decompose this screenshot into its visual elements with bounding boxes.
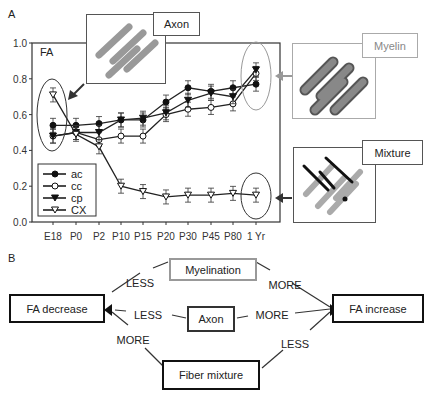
x-tick-label: E18 xyxy=(44,231,62,242)
x-tick-label: P45 xyxy=(202,231,220,242)
fiber-mixture-node: Fiber mixture xyxy=(162,360,260,390)
axon-label-box: Axon xyxy=(153,12,200,36)
fa-increase-node: FA increase xyxy=(332,294,424,323)
arrowhead-left-icon xyxy=(104,304,112,316)
edge-label-mixture-more: MORE xyxy=(117,334,150,346)
y-tick-label: 0.4 xyxy=(13,145,27,156)
edge-label-myelination-less: LESS xyxy=(126,277,154,289)
x-tick-label: P10 xyxy=(112,231,130,242)
edge-label-mixture-less: LESS xyxy=(281,338,309,350)
myelination-node: Myelination xyxy=(169,258,257,281)
axon-node: Axon xyxy=(187,306,235,332)
x-tick-label: P80 xyxy=(224,231,242,242)
chart-title: FA xyxy=(40,46,54,58)
x-tick-label: P20 xyxy=(157,231,175,242)
y-tick-label: 0.0 xyxy=(13,217,27,228)
edge-label-myelination-more: MORE xyxy=(269,279,302,291)
chart-legend: accccpCX xyxy=(38,164,96,216)
e18-highlight-ellipse xyxy=(37,79,67,151)
legend-entry-ac: ac xyxy=(71,168,83,180)
y-tick-label: 0.2 xyxy=(13,181,27,192)
myelin-label-box: Myelin xyxy=(362,33,418,58)
y-tick-label: 0.8 xyxy=(13,74,27,85)
x-tick-label: 1 Yr xyxy=(247,231,266,242)
x-tick-label: P2 xyxy=(93,231,106,242)
x-tick-label: P15 xyxy=(134,231,152,242)
fa-decrease-node: FA decrease xyxy=(9,294,105,323)
legend-entry-cc: cc xyxy=(71,180,83,192)
edge-label-axon-less: LESS xyxy=(134,309,162,321)
x-tick-label: P30 xyxy=(179,231,197,242)
mixture-label-box: Mixture xyxy=(362,140,423,165)
legend-entry-CX: CX xyxy=(71,204,87,216)
y-tick-label: 0.6 xyxy=(13,110,27,121)
myelin-arrow-icon xyxy=(275,71,283,81)
y-tick-label: 1.0 xyxy=(13,38,27,49)
legend-entry-cp: cp xyxy=(71,192,83,204)
x-tick-label: P0 xyxy=(70,231,83,242)
edge-label-axon-more: MORE xyxy=(256,309,289,321)
mixture-arrow-icon xyxy=(275,193,283,203)
